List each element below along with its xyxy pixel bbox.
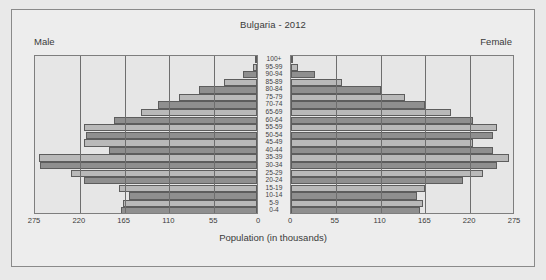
bar-row	[291, 86, 513, 93]
age-label-0-4: 0-4	[258, 206, 290, 213]
gridline-165	[425, 56, 426, 213]
x-tick-55: 55	[209, 216, 217, 225]
age-label-80-84: 80-84	[258, 85, 290, 92]
x-tick-0: 0	[256, 216, 260, 225]
bar-row	[291, 79, 513, 86]
male-axis-label: Male	[34, 36, 55, 47]
bar-row	[291, 147, 513, 154]
bar-row	[291, 207, 513, 214]
age-label-25-29: 25-29	[258, 169, 290, 176]
bar-row	[35, 185, 257, 192]
age-label-70-74: 70-74	[258, 100, 290, 107]
x-tick-165: 165	[418, 216, 431, 225]
bar-row	[35, 170, 257, 177]
gridline-55	[214, 56, 215, 213]
bar-row	[35, 147, 257, 154]
bar-row	[291, 170, 513, 177]
bar-row	[35, 101, 257, 108]
x-tick-220: 220	[72, 216, 85, 225]
female-x-tick-labels: 055110165220275	[290, 216, 514, 228]
male-bar-30-34	[40, 162, 257, 169]
bar-row	[35, 64, 257, 71]
male-bar-75-79	[179, 94, 257, 101]
female-bar-55-59	[291, 124, 497, 131]
male-bar-45-49	[84, 139, 257, 146]
x-tick-110: 110	[162, 216, 174, 225]
female-bar-70-74	[291, 101, 425, 108]
age-label-85-89: 85-89	[258, 78, 290, 85]
age-label-20-24: 20-24	[258, 176, 290, 183]
bar-row	[291, 56, 513, 63]
gridline-220	[80, 56, 81, 213]
x-tick-110: 110	[374, 216, 386, 225]
x-tick-275: 275	[508, 216, 521, 225]
male-bar-55-59	[84, 124, 257, 131]
female-bar-45-49	[291, 139, 473, 146]
female-plot-panel	[290, 55, 514, 214]
female-bar-85-89	[291, 79, 342, 86]
bar-row	[35, 162, 257, 169]
male-bars	[35, 56, 257, 213]
age-label-65-69: 65-69	[258, 108, 290, 115]
female-bar-75-79	[291, 94, 405, 101]
age-group-axis: 100+95-9990-9485-8980-8475-7970-7465-696…	[258, 55, 290, 214]
male-bar-10-14	[129, 192, 257, 199]
bar-row	[291, 139, 513, 146]
bar-row	[291, 132, 513, 139]
male-bar-20-24	[84, 177, 257, 184]
female-bar-40-44	[291, 147, 493, 154]
age-label-5-9: 5-9	[258, 199, 290, 206]
female-bars	[291, 56, 513, 213]
female-bar-5-9	[291, 200, 423, 207]
bar-row	[35, 132, 257, 139]
male-bar-35-39	[39, 154, 257, 161]
age-label-75-79: 75-79	[258, 93, 290, 100]
age-label-10-14: 10-14	[258, 191, 290, 198]
age-label-55-59: 55-59	[258, 123, 290, 130]
male-bar-70-74	[158, 101, 257, 108]
age-label-35-39: 35-39	[258, 153, 290, 160]
bar-row	[35, 117, 257, 124]
female-bar-15-19	[291, 185, 425, 192]
bar-row	[35, 71, 257, 78]
gridline-165	[125, 56, 126, 213]
female-axis-label: Female	[480, 36, 512, 47]
chart-figure: Bulgaria - 2012 Male Female 100+95-9990-…	[11, 9, 535, 267]
male-bar-40-44	[109, 147, 257, 154]
male-bar-15-19	[119, 185, 257, 192]
bar-row	[291, 177, 513, 184]
male-bar-80-84	[199, 86, 257, 93]
male-plot-panel	[34, 55, 258, 214]
female-bar-35-39	[291, 154, 509, 161]
female-bar-50-54	[291, 132, 493, 139]
bar-row	[35, 154, 257, 161]
female-bar-0-4	[291, 207, 420, 214]
male-bar-60-64	[114, 117, 257, 124]
bar-row	[291, 109, 513, 116]
bar-row	[35, 207, 257, 214]
female-bar-95-99	[291, 64, 298, 71]
bar-row	[291, 200, 513, 207]
bar-row	[291, 64, 513, 71]
age-label-15-19: 15-19	[258, 184, 290, 191]
x-tick-0: 0	[288, 216, 292, 225]
male-bar-50-54	[86, 132, 257, 139]
bar-row	[291, 124, 513, 131]
female-bar-100plus	[291, 56, 293, 63]
bar-row	[35, 124, 257, 131]
bar-row	[35, 200, 257, 207]
age-label-90-94: 90-94	[258, 70, 290, 77]
bar-row	[291, 162, 513, 169]
female-bar-90-94	[291, 71, 315, 78]
gridline-55	[336, 56, 337, 213]
bar-row	[35, 56, 257, 63]
age-label-40-44: 40-44	[258, 146, 290, 153]
bar-row	[35, 94, 257, 101]
bar-row	[35, 86, 257, 93]
male-bar-25-29	[71, 170, 257, 177]
bar-row	[291, 94, 513, 101]
female-bar-60-64	[291, 117, 473, 124]
male-bar-65-69	[141, 109, 257, 116]
x-tick-275: 275	[28, 216, 41, 225]
male-bar-100plus	[255, 56, 257, 63]
